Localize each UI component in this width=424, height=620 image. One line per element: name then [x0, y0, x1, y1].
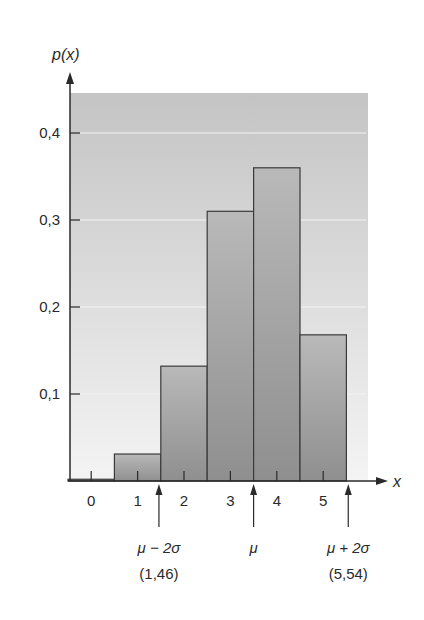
- x-tick-label: 5: [319, 492, 327, 509]
- y-tick-label: 0,2: [39, 298, 60, 315]
- x-axis-arrow-icon: [376, 477, 388, 485]
- x-tick-label: 0: [87, 492, 95, 509]
- annotations: μ − 2σ(1,46)μμ + 2σ(5,54): [137, 484, 371, 582]
- y-tick-label: 0,3: [39, 211, 60, 228]
- bar-3: [207, 211, 253, 481]
- y-tick-label: 0,4: [39, 124, 60, 141]
- arrow-head-icon: [345, 484, 352, 495]
- x-tick-label: 4: [273, 492, 281, 509]
- annotation-label: μ − 2σ: [137, 539, 182, 556]
- arrow-head-icon: [250, 484, 257, 495]
- annotation-value: (5,54): [329, 565, 368, 582]
- y-tick-label: 0,1: [39, 385, 60, 402]
- bar-4: [254, 168, 300, 481]
- arrow-head-icon: [155, 484, 162, 495]
- y-axis-title: p(x): [51, 46, 80, 63]
- x-tick-label: 3: [226, 492, 234, 509]
- bar-2: [161, 366, 207, 481]
- x-tick-label: 2: [180, 492, 188, 509]
- annotation-value: (1,46): [139, 565, 178, 582]
- bar-5: [300, 335, 346, 481]
- x-axis-title: x: [392, 473, 402, 490]
- annotation-label: μ: [248, 539, 257, 556]
- histogram-chart: 012345 0,10,20,30,4 p(x) x μ − 2σ(1,46)μ…: [0, 0, 424, 620]
- y-axis-arrow-icon: [66, 72, 74, 84]
- x-tick-label: 1: [133, 492, 141, 509]
- annotation-label: μ + 2σ: [326, 539, 371, 556]
